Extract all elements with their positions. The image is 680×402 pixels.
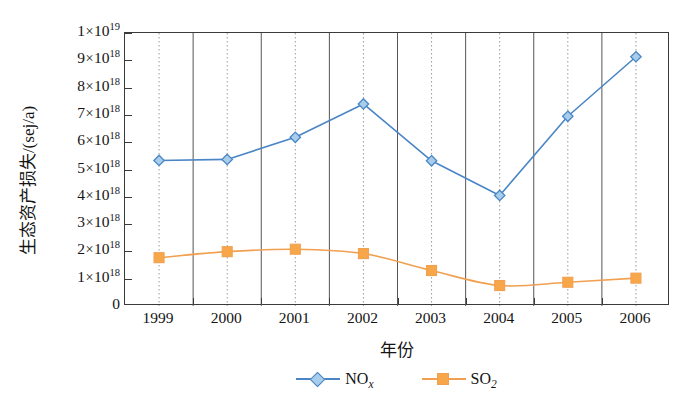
x-axis-tick-labels: 19992000200120022003200420052006 (124, 309, 669, 335)
y-axis-tick-mark (125, 142, 132, 143)
data-point-SO2 (358, 249, 368, 259)
x-axis-tick-mark (329, 298, 330, 304)
y-axis-tick-label: 8×1018 (28, 78, 120, 94)
data-point-SO2 (631, 273, 641, 283)
data-point-NOx (290, 132, 300, 142)
plot-area (124, 32, 669, 305)
y-axis-tick-mark (125, 115, 132, 116)
data-point-SO2 (154, 253, 164, 263)
x-axis-tick-label: 2006 (600, 309, 670, 327)
data-point-SO2 (427, 266, 437, 276)
x-axis-tick-label: 2001 (259, 309, 329, 327)
x-axis-tick-mark (398, 298, 399, 304)
y-axis-tick-label: 6×1018 (28, 132, 120, 148)
y-axis-tick-label: 3×1018 (28, 214, 120, 230)
x-axis-tick-mark (466, 298, 467, 304)
x-axis-tick-mark (261, 298, 262, 304)
x-axis-title: 年份 (124, 336, 669, 361)
legend-item-SO2[interactable]: SO2 (422, 370, 497, 388)
legend-label-SO2: SO2 (471, 370, 497, 388)
legend-marker-square-icon (437, 373, 449, 385)
y-axis-tick-mark (125, 33, 132, 34)
y-axis-tick-label: 9×1018 (28, 50, 120, 66)
y-axis-tick-mark (125, 170, 132, 171)
legend-swatch-SO2 (422, 372, 466, 386)
chart-figure: 生态资产损失/(sej/a) 01×10182×10183×10184×1018… (0, 0, 680, 402)
y-axis-tick-mark (125, 279, 132, 280)
legend-item-NOx[interactable]: NOx (296, 370, 373, 388)
data-point-SO2 (495, 281, 505, 291)
plot-svg (125, 33, 670, 306)
y-axis-tick-mark (125, 224, 132, 225)
chart-legend: NOxSO2 (124, 366, 669, 392)
y-axis-tick-label: 7×1018 (28, 105, 120, 121)
x-axis-tick-label: 2003 (396, 309, 466, 327)
y-axis-tick-mark (125, 197, 132, 198)
data-point-NOx (222, 154, 232, 164)
x-axis-tick-mark (602, 298, 603, 304)
y-axis-tick-label: 1×1018 (28, 269, 120, 285)
y-axis-tick-label: 5×1018 (28, 160, 120, 176)
y-axis-tick-label: 1×1019 (28, 23, 120, 39)
y-axis-tick-mark (125, 88, 132, 89)
y-axis-tick-label: 4×1018 (28, 187, 120, 203)
data-point-SO2 (290, 244, 300, 254)
legend-swatch-NOx (296, 372, 340, 386)
x-axis-tick-label: 2004 (464, 309, 534, 327)
data-point-NOx (154, 155, 164, 165)
x-axis-tick-mark (534, 298, 535, 304)
x-axis-tick-label: 2000 (191, 309, 261, 327)
data-point-SO2 (563, 277, 573, 287)
y-axis-tick-mark (125, 60, 132, 61)
y-axis-tick-label: 0 (28, 296, 120, 312)
legend-label-NOx: NOx (345, 370, 373, 388)
x-axis-tick-label: 1999 (123, 309, 193, 327)
y-axis-tick-mark (125, 251, 132, 252)
x-axis-tick-mark (193, 298, 194, 304)
y-axis-tick-label: 2×1018 (28, 241, 120, 257)
data-point-SO2 (222, 247, 232, 257)
x-axis-tick-label: 2002 (327, 309, 397, 327)
y-axis-tick-labels: 01×10182×10183×10184×10185×10186×10187×1… (28, 0, 120, 402)
legend-marker-diamond-icon (310, 371, 326, 387)
x-axis-tick-label: 2005 (532, 309, 602, 327)
